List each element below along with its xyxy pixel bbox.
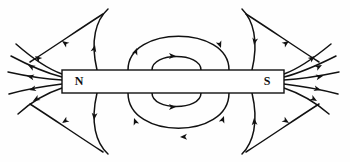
outer-sweep-top-left: [30, 14, 103, 62]
arrow-inner-loop-below-large-bottom: [180, 134, 187, 140]
inner-loop-below-small: [152, 93, 201, 107]
left-fan-line-3: [8, 72, 62, 80]
right-fan-line-4: [284, 84, 338, 94]
inner-loops-above-magnet: [128, 36, 229, 70]
right-fan-line-3: [284, 72, 339, 80]
north-pole-label: N: [75, 74, 84, 88]
inner-loop-below-large: [128, 93, 229, 128]
inner-loop-above-small: [152, 57, 201, 71]
outer-sweep-bottom-right: [246, 104, 319, 152]
magnetic-field-diagram: N S: [0, 0, 350, 162]
left-fan-field-lines: [8, 44, 62, 114]
right-fan-line-5: [284, 88, 329, 114]
inner-loop-above-large: [128, 36, 229, 70]
outer-sweep-bottom-left: [30, 104, 103, 152]
arrow-inner-loop-below-small: [169, 104, 176, 110]
outer-arc-bottom-left: [94, 93, 108, 154]
south-pole-label: S: [264, 74, 271, 88]
outer-sweep-top-right: [246, 14, 319, 62]
left-fan-line-4: [9, 84, 62, 94]
inner-loops-below-magnet: [128, 93, 229, 128]
arrow-inner-loop-below-large-left: [131, 117, 139, 126]
arrow-inner-loop-below-large-right: [219, 115, 227, 124]
right-fan-field-lines: [284, 44, 339, 114]
arrow-inner-loop-above-small: [169, 53, 176, 59]
field-line-canvas: N S: [0, 0, 350, 162]
bar-magnet-body: [62, 70, 284, 93]
